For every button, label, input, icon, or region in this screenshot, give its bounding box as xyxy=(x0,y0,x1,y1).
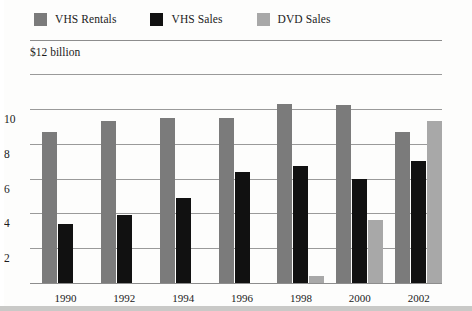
bar-vhs-rentals-1998 xyxy=(277,104,292,283)
y-tick-label-6: 6 xyxy=(4,183,26,195)
bar-vhs-sales-1998 xyxy=(293,166,308,283)
plot-area: 108642 1990199219941996199820002002 xyxy=(30,74,442,284)
bar-vhs-sales-2002 xyxy=(411,161,426,283)
y-tick-label-10: 10 xyxy=(4,113,26,125)
header-divider xyxy=(30,40,442,41)
legend-label-vhs-rentals: VHS Rentals xyxy=(55,13,116,25)
legend-swatch-vhs-rentals xyxy=(34,13,47,26)
y-tick-label-4: 4 xyxy=(4,217,26,229)
bar-vhs-sales-1996 xyxy=(235,172,250,284)
bar-group-1998 xyxy=(277,74,324,283)
legend-label-vhs-sales: VHS Sales xyxy=(171,13,222,25)
bar-vhs-sales-1990 xyxy=(58,224,73,283)
x-tick-label-2002: 2002 xyxy=(389,292,448,304)
bar-group-2000 xyxy=(336,74,383,283)
legend-item-vhs-rentals: VHS Rentals xyxy=(34,13,116,26)
bar-vhs-sales-2000 xyxy=(352,179,367,284)
bar-group-1994 xyxy=(160,74,207,283)
legend-swatch-vhs-sales xyxy=(150,13,163,26)
bar-vhs-rentals-1990 xyxy=(42,132,57,284)
bar-group-1990 xyxy=(42,74,89,283)
legend-label-dvd-sales: DVD Sales xyxy=(278,13,331,25)
legend-swatch-dvd-sales xyxy=(257,13,270,26)
bar-vhs-rentals-2002 xyxy=(395,132,410,284)
bar-dvd-sales-1998 xyxy=(309,276,324,283)
x-tick-label-1990: 1990 xyxy=(36,292,95,304)
y-tick-label-2: 2 xyxy=(4,252,26,264)
bar-vhs-rentals-1992 xyxy=(101,121,116,283)
legend-item-dvd-sales: DVD Sales xyxy=(257,13,331,26)
bar-vhs-rentals-1996 xyxy=(219,118,234,284)
x-tick-label-1994: 1994 xyxy=(154,292,213,304)
legend-item-vhs-sales: VHS Sales xyxy=(150,13,222,26)
bottom-border-band xyxy=(0,306,472,311)
bar-vhs-sales-1992 xyxy=(117,215,132,283)
bar-group-2002 xyxy=(395,74,442,283)
chart-legend: VHS Rentals VHS Sales DVD Sales xyxy=(34,8,365,30)
x-tick-label-1992: 1992 xyxy=(95,292,154,304)
bar-vhs-sales-1994 xyxy=(176,198,191,283)
x-tick-label-2000: 2000 xyxy=(330,292,389,304)
bar-group-1992 xyxy=(101,74,148,283)
x-axis-baseline xyxy=(30,283,442,284)
bars-layer xyxy=(30,74,442,283)
left-margin-band xyxy=(0,0,4,311)
bar-vhs-rentals-2000 xyxy=(336,105,351,283)
bar-vhs-rentals-1994 xyxy=(160,118,175,283)
y-axis-unit-caption: $12 billion xyxy=(30,46,80,58)
bar-dvd-sales-2002 xyxy=(427,121,442,283)
x-tick-label-1996: 1996 xyxy=(213,292,272,304)
y-tick-label-8: 8 xyxy=(4,148,26,160)
bar-chart-figure: VHS Rentals VHS Sales DVD Sales $12 bill… xyxy=(0,0,472,311)
x-tick-label-1998: 1998 xyxy=(271,292,330,304)
bar-group-1996 xyxy=(219,74,266,283)
bar-dvd-sales-2000 xyxy=(368,220,383,283)
